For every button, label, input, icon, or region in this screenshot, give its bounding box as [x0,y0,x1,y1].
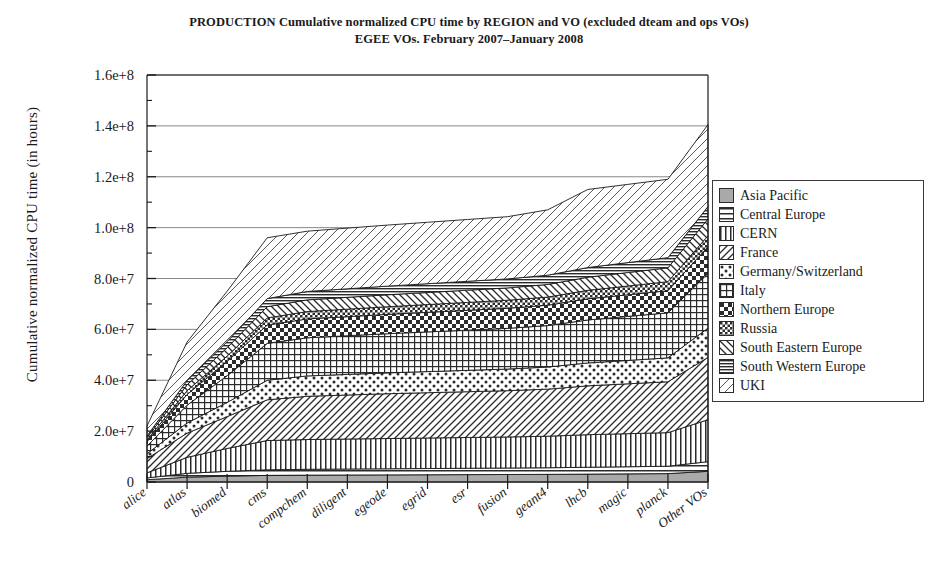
legend-item[interactable]: CERN [719,224,917,243]
legend-swatch-diagonal-forward-icon [719,245,734,260]
legend-label: Asia Pacific [740,189,808,203]
legend-label: Northern Europe [740,303,834,317]
legend-item[interactable]: Northern Europe [719,300,917,319]
y-tick-label: 2.0e+7 [94,423,134,439]
area-bands [147,125,708,482]
x-tick-label: egeode [350,484,390,519]
x-tick-label: esr [447,484,470,506]
y-tick-label: 1.4e+8 [94,118,134,134]
legend-swatch-dots-icon [719,264,734,279]
y-tick-label: 8.0e+7 [94,271,134,287]
legend: Asia PacificCentral EuropeCERNFranceGerm… [712,180,924,402]
legend-label: Central Europe [740,208,825,222]
legend-swatch-solid-gray-icon [719,188,734,203]
y-tick-label: 1.6e+8 [94,67,134,83]
legend-label: Germany/Switzerland [740,265,863,279]
legend-label: South Eastern Europe [740,341,862,355]
legend-item[interactable]: France [719,243,917,262]
y-tick-label: 1.2e+8 [94,169,134,185]
x-tick-label: lhcb [562,484,590,510]
legend-label: France [740,246,778,260]
legend-swatch-dense-horizontal-icon [719,359,734,374]
x-tick-label: alice [119,484,149,512]
chart-page: PRODUCTION Cumulative normalized CPU tim… [0,0,938,588]
legend-item[interactable]: Central Europe [719,205,917,224]
legend-swatch-vertical-lines-icon [719,226,734,241]
x-tick-label: magic [594,484,629,516]
legend-label: South Western Europe [740,360,865,374]
y-tick-labels: 02.0e+74.0e+76.0e+78.0e+71.0e+81.2e+81.4… [94,67,134,490]
legend-item[interactable]: South Eastern Europe [719,338,917,357]
legend-label: UKI [740,379,765,393]
x-tick-label: cms [243,484,269,509]
y-tick-label: 6.0e+7 [94,321,134,337]
legend-label: Italy [740,284,766,298]
legend-swatch-grid-icon [719,283,734,298]
y-tick-label: 4.0e+7 [94,372,134,388]
legend-item[interactable]: South Western Europe [719,357,917,376]
legend-label: Russia [740,322,777,336]
x-tick-label: atlas [159,484,189,512]
x-tick-label: biomed [188,484,229,520]
x-tick-label: geant4 [511,484,550,518]
legend-item[interactable]: Russia [719,319,917,338]
legend-swatch-diagonal-outline-icon [719,378,734,393]
legend-item[interactable]: UKI [719,376,917,395]
x-tick-label: diligent [307,484,350,522]
x-tick-label: fusion [474,484,510,516]
legend-swatch-dense-checker-icon [719,321,734,336]
legend-swatch-checker-icon [719,302,734,317]
legend-item[interactable]: Italy [719,281,917,300]
x-tick-labels: aliceatlasbiomedcmscompchemdiligentegeod… [119,484,710,531]
y-tick-label: 0 [127,474,134,490]
legend-label: CERN [740,227,777,241]
legend-swatch-diagonal-back-icon [719,340,734,355]
legend-item[interactable]: Asia Pacific [719,186,917,205]
legend-swatch-horizontal-lines-icon [719,207,734,222]
legend-item[interactable]: Germany/Switzerland [719,262,917,281]
x-tick-label: egrid [398,484,430,513]
y-tick-label: 1.0e+8 [94,220,134,236]
